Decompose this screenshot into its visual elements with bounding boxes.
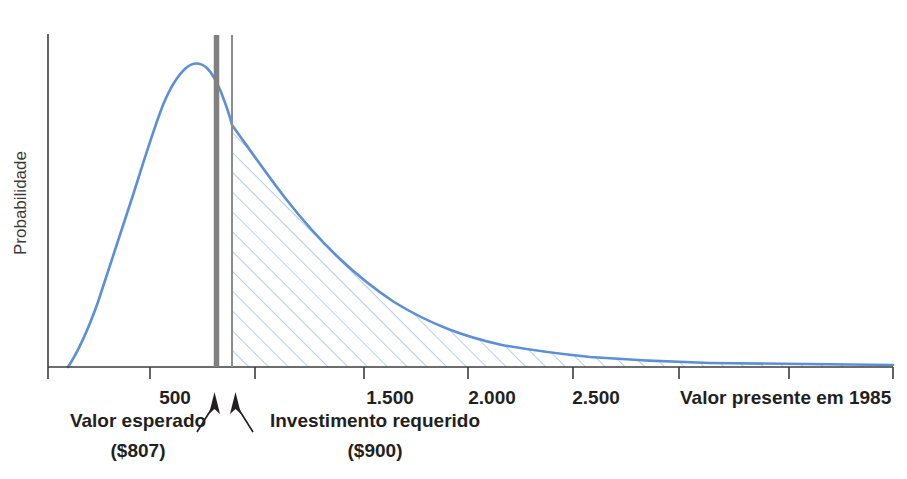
x-axis-title: Valor presente em 1985	[680, 387, 892, 408]
x-tick-label-500: 500	[159, 387, 191, 408]
y-axis-title: Probabilidade	[11, 151, 30, 255]
chart-page: 500 1.500 2.000 2.500 Valor presente em …	[0, 0, 907, 479]
x-tick-label-2000: 2.000	[468, 387, 516, 408]
probability-distribution-chart: 500 1.500 2.000 2.500 Valor presente em …	[0, 0, 907, 479]
expected-value-amount: ($807)	[111, 440, 166, 461]
required-investment-amount: ($900)	[348, 440, 403, 461]
expected-value-label: Valor esperado	[70, 410, 206, 431]
required-investment-label: Investimento requerido	[270, 410, 480, 431]
x-tick-label-2500: 2.500	[572, 387, 620, 408]
x-tick-label-1500: 1.500	[366, 387, 414, 408]
